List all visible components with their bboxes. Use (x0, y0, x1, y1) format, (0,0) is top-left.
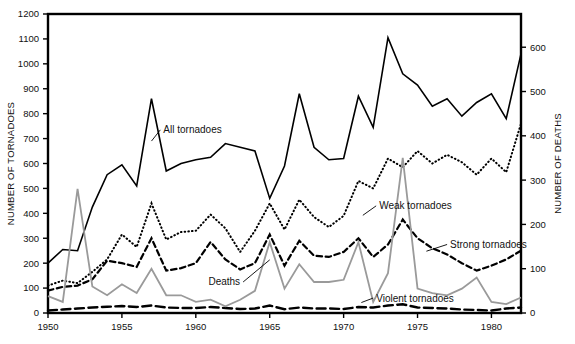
y-axis-tick-label: 1200 (18, 8, 39, 19)
chart-plot-area: 0100200300400500600700800900100011001200… (0, 0, 575, 344)
leader-line-violent-tornadoes (361, 298, 373, 302)
x-axis-tick-label: 1970 (333, 321, 354, 332)
y-axis-tick-label: 300 (23, 233, 39, 244)
x-axis-tick-label: 1950 (37, 321, 58, 332)
y-axis-tick-label: 200 (23, 258, 39, 269)
series-label-strong-tornadoes: Strong tornadoes (450, 239, 527, 250)
y2-axis-tick-label: 600 (530, 42, 546, 53)
y-axis-tick-label: 800 (23, 108, 39, 119)
y-axis-tick-label: 1000 (18, 58, 39, 69)
y2-axis-tick-label: 300 (530, 175, 546, 186)
y-axis-tick-label: 700 (23, 133, 39, 144)
series-label-weak-tornadoes: Weak tornadoes (379, 200, 452, 211)
right-axis-title: NUMBER OF DEATHS (552, 113, 563, 214)
y-axis-tick-label: 400 (23, 208, 39, 219)
leader-line-deaths (243, 260, 270, 282)
y-axis-tick-label: 1100 (19, 33, 39, 44)
series-label-deaths: Deaths (208, 276, 240, 287)
x-axis-tick-label: 1965 (259, 321, 280, 332)
left-axis-title: NUMBER OF TORNADOES (5, 102, 16, 225)
y2-axis-tick-label: 400 (530, 130, 546, 141)
x-axis-tick-label: 1975 (407, 321, 428, 332)
y-axis-tick-label: 100 (23, 282, 39, 293)
series-label-violent-tornadoes: Violent tornadoes (376, 293, 454, 304)
series-label-all-tornadoes: All tornadoes (163, 124, 221, 135)
series-line-violent-tornadoes (48, 304, 521, 310)
y2-axis-tick-label: 500 (530, 86, 546, 97)
leader-line-weak-tornadoes (363, 206, 376, 215)
y-axis-tick-label: 0 (34, 307, 39, 318)
series-line-deaths (48, 158, 521, 306)
x-axis-tick-label: 1980 (481, 321, 502, 332)
tornado-statistics-chart: 0100200300400500600700800900100011001200… (0, 0, 575, 344)
y2-axis-tick-label: 100 (530, 263, 546, 274)
x-axis-tick-label: 1955 (111, 321, 132, 332)
y-axis-tick-label: 500 (23, 183, 39, 194)
y-axis-tick-label: 900 (23, 83, 39, 94)
y2-axis-tick-label: 200 (530, 219, 546, 230)
y2-axis-tick-label: 0 (530, 307, 535, 318)
y-axis-tick-label: 600 (23, 158, 39, 169)
series-line-strong-tornadoes (48, 220, 521, 291)
x-axis-tick-label: 1960 (185, 321, 206, 332)
